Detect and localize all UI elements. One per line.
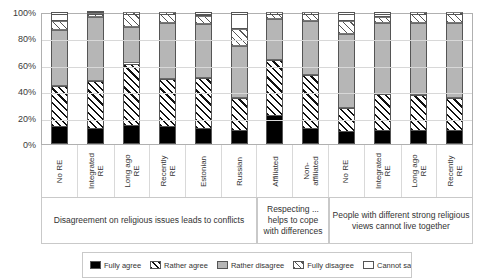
- bar-segment[interactable]: [195, 129, 212, 144]
- bar-segment[interactable]: [410, 12, 427, 23]
- stacked-bar[interactable]: [195, 14, 212, 144]
- bar-segment[interactable]: [231, 29, 248, 46]
- x-axis-tick-6: Affiliated: [257, 145, 293, 197]
- bar-segment[interactable]: [51, 127, 68, 144]
- x-axis-tick-label: Estonian: [199, 155, 208, 186]
- bar-segment[interactable]: [410, 131, 427, 144]
- bar-segment[interactable]: [159, 127, 176, 144]
- x-axis-tick-2: Long agoRE: [115, 145, 151, 197]
- bar-segment[interactable]: [231, 131, 248, 144]
- bar-segment[interactable]: [51, 86, 68, 127]
- bar-segment[interactable]: [231, 46, 248, 97]
- legend-item-2[interactable]: Rather disagree: [217, 261, 284, 270]
- legend-item-4[interactable]: Cannot say: [363, 261, 412, 270]
- bar-segment[interactable]: [159, 23, 176, 80]
- bar-segment[interactable]: [446, 23, 463, 98]
- legend-label: Cannot say: [377, 261, 412, 270]
- bar-segment[interactable]: [87, 129, 104, 144]
- bar-segment[interactable]: [51, 21, 68, 30]
- bar-segment[interactable]: [266, 60, 283, 117]
- stacked-bar[interactable]: [266, 14, 283, 144]
- x-axis-tick-0: No RE: [42, 145, 78, 197]
- x-axis-tick-11: RecentlyRE: [437, 145, 472, 197]
- stacked-bar[interactable]: [51, 14, 68, 144]
- x-axis-tick-label: No RE: [342, 159, 351, 183]
- bar-slot: [257, 14, 293, 144]
- stacked-bar[interactable]: [302, 14, 319, 144]
- bar-segment[interactable]: [123, 12, 140, 27]
- bar-series-container: [42, 14, 472, 144]
- legend-swatch: [293, 261, 304, 269]
- bar-segment[interactable]: [87, 81, 104, 130]
- bar-segment[interactable]: [123, 64, 140, 126]
- x-axis-tick-label: IntegratedRE: [374, 153, 392, 189]
- bar-segment[interactable]: [446, 98, 463, 131]
- bar-segment[interactable]: [338, 132, 355, 144]
- x-axis-group-labels: Disagreement on religious issues leads t…: [41, 198, 473, 244]
- gridline: [42, 40, 472, 41]
- x-axis-tick-label: Russian: [235, 157, 244, 186]
- bar-segment[interactable]: [195, 78, 212, 129]
- bar-segment[interactable]: [410, 95, 427, 131]
- stacked-bar[interactable]: [446, 14, 463, 144]
- bar-segment[interactable]: [87, 11, 104, 13]
- bar-segment[interactable]: [123, 126, 140, 144]
- y-axis-tick-label: 40%: [18, 88, 36, 97]
- bar-segment[interactable]: [374, 17, 391, 22]
- bar-segment[interactable]: [87, 17, 104, 80]
- x-axis-tick-5: Russian: [222, 145, 258, 197]
- bar-segment[interactable]: [410, 23, 427, 96]
- bar-segment[interactable]: [51, 12, 68, 21]
- stacked-bar[interactable]: [374, 14, 391, 144]
- y-axis-tick-label: 80%: [18, 35, 36, 44]
- bar-segment[interactable]: [302, 129, 319, 144]
- x-axis-tick-label: Non-affiliated: [302, 156, 320, 186]
- bar-segment[interactable]: [338, 21, 355, 34]
- legend-swatch: [90, 261, 101, 269]
- bar-segment[interactable]: [302, 75, 319, 129]
- bar-slot: [149, 14, 185, 144]
- x-axis-tick-1: IntegratedRE: [78, 145, 115, 197]
- bar-segment[interactable]: [266, 19, 283, 60]
- y-axis-tick-label: 60%: [18, 61, 36, 70]
- bar-segment[interactable]: [87, 13, 104, 17]
- x-axis-tick-label: Long agoRE: [410, 154, 428, 187]
- stacked-bar[interactable]: [410, 14, 427, 144]
- bar-segment[interactable]: [159, 12, 176, 23]
- bar-segment[interactable]: [231, 98, 248, 131]
- bar-segment[interactable]: [195, 24, 212, 78]
- stacked-bar[interactable]: [231, 14, 248, 144]
- bar-slot: [293, 14, 329, 144]
- bar-segment[interactable]: [446, 12, 463, 23]
- bar-segment[interactable]: [266, 12, 283, 19]
- bar-segment[interactable]: [374, 23, 391, 94]
- bar-segment[interactable]: [446, 131, 463, 144]
- x-axis-group-label-0: Disagreement on religious issues leads t…: [41, 198, 257, 244]
- bar-segment[interactable]: [338, 12, 355, 21]
- x-axis-tick-3: RecentlyRE: [150, 145, 186, 197]
- bar-slot: [185, 14, 221, 144]
- legend-item-3[interactable]: Fully disagree: [293, 261, 354, 270]
- bar-slot: [42, 14, 78, 144]
- bar-segment[interactable]: [374, 94, 391, 131]
- bar-slot: [329, 14, 365, 144]
- stacked-bar[interactable]: [123, 14, 140, 144]
- legend-item-1[interactable]: Rather agree: [150, 261, 208, 270]
- stacked-bar[interactable]: [159, 14, 176, 144]
- bar-segment[interactable]: [338, 34, 355, 108]
- bar-segment[interactable]: [374, 131, 391, 144]
- stacked-bar[interactable]: [338, 14, 355, 144]
- bar-segment[interactable]: [51, 30, 68, 85]
- bar-segment[interactable]: [195, 12, 212, 16]
- bar-segment[interactable]: [231, 12, 248, 29]
- stacked-bar[interactable]: [87, 14, 104, 144]
- x-axis-tick-label: RecentlyRE: [446, 155, 464, 186]
- bar-segment[interactable]: [123, 27, 140, 64]
- bar-segment[interactable]: [195, 16, 212, 24]
- bar-segment[interactable]: [374, 12, 391, 17]
- bar-segment[interactable]: [302, 12, 319, 21]
- legend-item-0[interactable]: Fully agree: [90, 261, 141, 270]
- bar-slot: [436, 14, 472, 144]
- legend-swatch: [217, 261, 228, 269]
